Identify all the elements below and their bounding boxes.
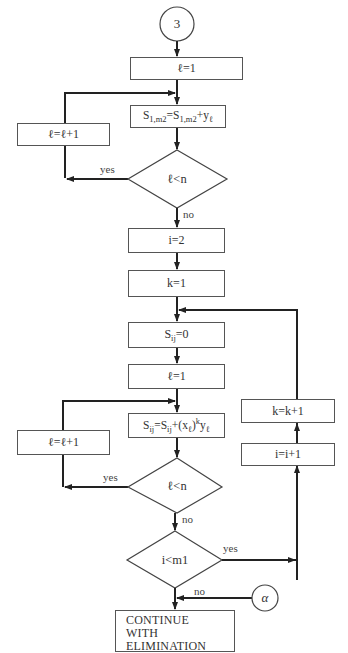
init-l-box: ℓ=1 [130,57,243,80]
init-l-text-2: ℓ=1 [167,369,186,384]
update-sij-box: Sij=Sij+(xℓ)kyℓ [128,413,225,438]
increment-l-text-1: ℓ=ℓ+1 [48,127,79,142]
yes-label-2: yes [103,471,118,483]
start-connector-label: 3 [174,16,181,32]
reset-sij-text: Sij=0 [164,327,188,343]
increment-k-text: k=k+1 [272,404,304,419]
increment-i-text: i=i+1 [275,447,301,462]
increment-l-box-2: ℓ=ℓ+1 [17,430,110,455]
decision-i-lt-m1: i<m1 [162,553,189,568]
init-k-text: k=1 [167,276,186,291]
init-l-text: ℓ=1 [177,61,196,76]
alpha-connector-label: α [262,590,269,606]
init-k-box: k=1 [128,270,225,297]
update-sum-box: S1,m2=S1,m2+yℓ [130,105,226,128]
init-l-box-2: ℓ=1 [128,364,225,389]
reset-sij-box: Sij=0 [128,322,225,348]
increment-l-text-2: ℓ=ℓ+1 [48,435,79,450]
update-sum-text: S1,m2=S1,m2+yℓ [143,109,213,124]
init-i-text: i=2 [168,233,184,248]
final-line-2: WITH ELIMINATION [126,627,234,653]
increment-l-box-1: ℓ=ℓ+1 [17,123,110,146]
increment-i-box: i=i+1 [241,443,335,466]
yes-label-1: yes [100,163,115,175]
yes-label-3: yes [223,542,238,554]
decision-l-lt-n-2: ℓ<n [167,479,186,494]
update-sij-text: Sij=Sij+(xℓ)kyℓ [143,416,210,434]
init-i-box: i=2 [128,228,225,253]
no-label-2: no [182,513,193,525]
increment-k-box: k=k+1 [241,399,335,423]
no-label-3: no [194,585,205,597]
no-label-1: no [183,208,194,220]
decision-l-lt-n-1: ℓ<n [167,172,186,187]
continue-elimination-box: CONTINUE WITH ELIMINATION METHOD [115,610,235,652]
